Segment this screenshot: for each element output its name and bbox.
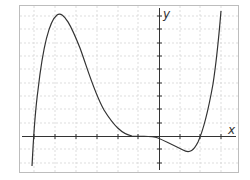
y-axis-label: y (162, 7, 171, 21)
x-axis-label: x (227, 123, 236, 137)
plot-frame (20, 6, 239, 173)
function-graph: x y (0, 0, 250, 180)
